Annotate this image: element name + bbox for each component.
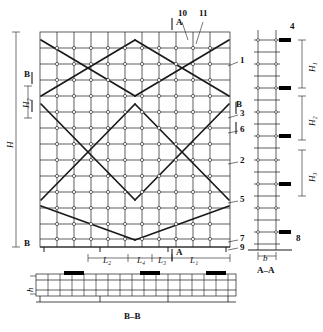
section-mark-b-right-top: B [236, 100, 242, 109]
callout-5: 5 [240, 195, 245, 204]
callout-4: 4 [290, 22, 295, 31]
callout-6: 6 [240, 125, 245, 134]
dimension-L1: L₁ [190, 256, 198, 265]
callout-1: 1 [240, 56, 245, 65]
dimension-H: H [6, 148, 13, 157]
callout-9: 9 [240, 243, 245, 252]
dimension-b: b [263, 254, 268, 263]
dimension-L4: L₄ [137, 256, 145, 265]
scaffolding-drawing [0, 0, 323, 332]
dimension-h-bb: h [26, 292, 31, 301]
dimension-L2: L₂ [103, 256, 111, 265]
dimension-H1-right: H₁ [308, 72, 318, 81]
section-mark-b-left-bottom: B [24, 239, 30, 248]
dimension-H2-left: H₂ [22, 108, 32, 117]
section-mark-b-left-top: B [24, 70, 30, 79]
section-mark-a-bottom: A [176, 248, 183, 257]
caption-section-bb: B–B [124, 312, 141, 321]
caption-section-aa: A–A [257, 266, 275, 275]
callout-2: 2 [240, 156, 245, 165]
callout-8: 8 [296, 234, 301, 243]
section-mark-a-top: A [176, 18, 183, 27]
callout-3: 3 [240, 109, 245, 118]
dimension-H2-right: H₂ [308, 126, 318, 135]
dimension-L3: L₃ [158, 256, 166, 265]
dimension-H3-right: H₃ [308, 182, 318, 191]
canvas-background [0, 0, 323, 332]
callout-11: 11 [199, 9, 208, 18]
